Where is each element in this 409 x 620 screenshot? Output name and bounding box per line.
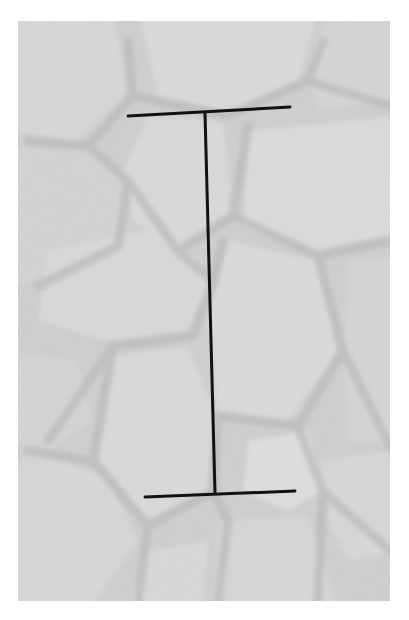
measurement-bottom-bar [145,491,295,497]
measurement-vertical-line [205,113,215,493]
measurement-marker [0,0,409,620]
measurement-top-bar [128,107,290,116]
